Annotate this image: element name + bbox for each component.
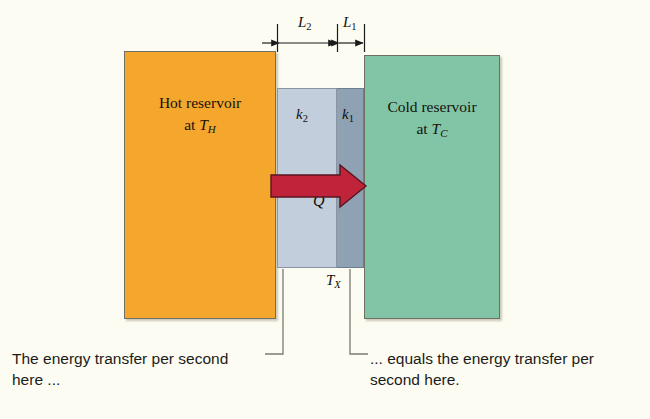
slab-k1-label: k1 bbox=[342, 106, 354, 124]
slab-k2-subscript: 2 bbox=[303, 113, 308, 124]
cold-reservoir-temp-subscript: C bbox=[440, 128, 447, 140]
hot-reservoir-temp-symbol: T bbox=[199, 116, 208, 133]
hot-reservoir-block: Hot reservoir at TH bbox=[124, 51, 276, 319]
cold-reservoir-line1: Cold reservoir bbox=[387, 98, 476, 115]
hot-reservoir-label: Hot reservoir at TH bbox=[159, 92, 241, 138]
slab-k1-symbol: k bbox=[342, 106, 349, 122]
cold-reservoir-temp-symbol: T bbox=[432, 120, 441, 137]
slab-k2-label: k2 bbox=[296, 106, 308, 124]
slab-k2-symbol: k bbox=[296, 106, 303, 122]
caption-left: The energy transfer per second here ... bbox=[12, 348, 262, 391]
heat-flow-label: Q bbox=[313, 192, 325, 210]
caption-right: ... equals the energy transfer per secon… bbox=[370, 348, 638, 391]
figure-canvas: Hot reservoir at TH Cold reservoir at TC… bbox=[0, 0, 650, 419]
hot-reservoir-temp-subscript: H bbox=[208, 124, 216, 136]
cold-reservoir-label: Cold reservoir at TC bbox=[387, 96, 476, 142]
interface-temp-subscript: X bbox=[334, 279, 340, 290]
cold-reservoir-line2-prefix: at bbox=[416, 120, 431, 137]
interface-temperature-label: TX bbox=[326, 272, 341, 290]
hot-reservoir-line2-prefix: at bbox=[184, 116, 199, 133]
cold-reservoir-block: Cold reservoir at TC bbox=[364, 55, 500, 319]
dimension-l1-label: L1 bbox=[343, 14, 357, 32]
hot-reservoir-line1: Hot reservoir bbox=[159, 94, 241, 111]
dimension-l2-label: L2 bbox=[298, 14, 312, 32]
dimension-l2-subscript: 2 bbox=[306, 21, 311, 32]
dimension-l1-subscript: 1 bbox=[351, 21, 356, 32]
slab-k1-subscript: 1 bbox=[349, 113, 354, 124]
